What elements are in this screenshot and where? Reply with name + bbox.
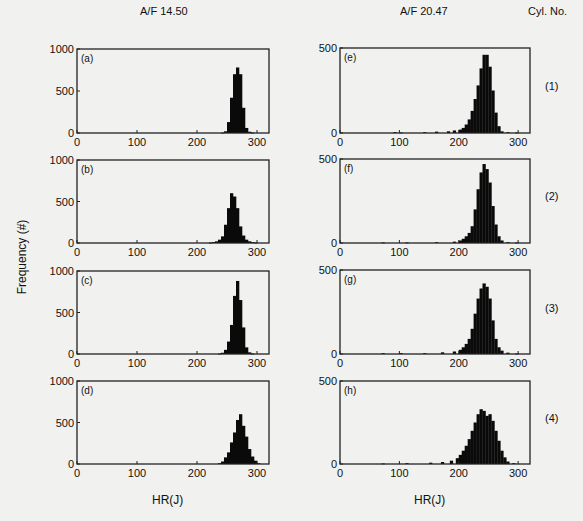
histogram-bar: [230, 325, 233, 354]
y-tick-label: 0: [331, 458, 337, 470]
histogram-bar: [471, 431, 474, 464]
x-tick-label: 100: [128, 467, 146, 479]
y-tick-label: 1000: [50, 154, 74, 166]
x-tick-label: 200: [188, 467, 206, 479]
panel-label: (g): [344, 274, 356, 285]
histogram-bar: [488, 183, 491, 243]
histogram-bar: [239, 300, 242, 354]
histogram-panel-b: (b)010020030005001000: [77, 160, 269, 243]
x-tick-label: 200: [188, 357, 206, 369]
histogram-bar: [480, 68, 483, 133]
histogram-bar: [474, 314, 477, 354]
y-tick-label: 500: [56, 196, 74, 208]
histogram-bar: [480, 409, 483, 464]
histogram-bar: [465, 446, 468, 464]
y-tick-label: 0: [68, 127, 74, 139]
histogram-bar: [224, 225, 227, 243]
column-title-af-14-50: A/F 14.50: [140, 5, 188, 17]
x-tick-label: 200: [188, 246, 206, 258]
histogram-bar: [245, 128, 248, 133]
x-tick-label: 100: [390, 467, 408, 479]
histogram-bar: [233, 296, 236, 354]
histogram-panel-g: (g)01002003000500: [340, 270, 530, 354]
x-tick-label: 300: [509, 357, 527, 369]
histogram-bar: [494, 225, 497, 243]
histogram-bar: [227, 342, 230, 354]
y-tick-label: 0: [68, 348, 74, 360]
histogram-bar: [251, 457, 254, 464]
histogram-bar: [248, 449, 251, 464]
x-tick-label: 300: [509, 467, 527, 479]
histogram-bar: [242, 327, 245, 354]
histogram-bar: [462, 451, 465, 464]
histogram-bar: [236, 420, 239, 464]
x-tick-label: 100: [128, 357, 146, 369]
histogram-bar: [491, 206, 494, 243]
x-tick-label: 200: [188, 136, 206, 148]
histogram-bar: [485, 55, 488, 133]
histogram-bar: [494, 339, 497, 354]
cylinder-label-3: (3): [545, 302, 558, 314]
x-tick-label: 300: [248, 467, 266, 479]
y-tick-label: 0: [331, 348, 337, 360]
y-tick-label: 500: [56, 85, 74, 97]
cylinder-label-4: (4): [545, 412, 558, 424]
histogram-panel-f: (f)01002003000500: [340, 159, 530, 243]
histogram-bar: [233, 197, 236, 243]
histogram-bar: [497, 441, 500, 464]
histogram-bar: [224, 457, 227, 464]
histogram-bar: [236, 67, 239, 133]
histogram-panel-d: (d)010020030005001000: [77, 381, 269, 464]
histogram-bar: [477, 414, 480, 464]
x-axis-label-right: HR(J): [414, 493, 445, 507]
y-axis-label: Frequency (#): [15, 207, 29, 307]
plot-frame: [340, 48, 530, 133]
plot-frame: [340, 270, 530, 354]
histogram-bar: [494, 113, 497, 133]
x-tick-label: 200: [450, 467, 468, 479]
x-tick-label: 200: [450, 136, 468, 148]
histogram-bar: [497, 236, 500, 243]
y-tick-label: 0: [331, 127, 337, 139]
histogram-bar: [474, 209, 477, 243]
y-tick-label: 500: [319, 153, 337, 165]
histogram-bar: [494, 431, 497, 464]
x-tick-label: 0: [337, 357, 343, 369]
histogram-bar: [239, 414, 242, 464]
histogram-bar: [485, 416, 488, 464]
histogram-bar: [230, 442, 233, 464]
histogram-bar: [488, 414, 491, 464]
histogram-bar: [497, 347, 500, 354]
histogram-bar: [488, 67, 491, 133]
histogram-bar: [471, 226, 474, 243]
x-tick-label: 100: [128, 246, 146, 258]
panel-label: (d): [81, 385, 93, 396]
histogram-panel-a: (a)010020030005001000: [77, 49, 269, 133]
x-tick-label: 100: [390, 357, 408, 369]
histogram-bar: [245, 347, 248, 354]
y-tick-label: 0: [68, 237, 74, 249]
cylinder-label-1: (1): [545, 80, 558, 92]
histogram-bar: [491, 421, 494, 464]
histogram-panel-e: (e)01002003000500: [340, 48, 530, 133]
x-tick-label: 100: [390, 136, 408, 148]
x-tick-label: 100: [128, 136, 146, 148]
histogram-bar: [500, 451, 503, 464]
histogram-bar: [227, 122, 230, 133]
x-tick-label: 0: [74, 246, 80, 258]
cylinder-number-header: Cyl. No.: [528, 5, 567, 17]
x-tick-label: 300: [248, 246, 266, 258]
histogram-bar: [468, 439, 471, 464]
y-tick-label: 500: [56, 307, 74, 319]
histogram-bar: [230, 193, 233, 243]
histogram-bar: [491, 320, 494, 354]
histogram-bar: [245, 437, 248, 464]
histogram-bar: [480, 288, 483, 354]
x-tick-label: 0: [337, 467, 343, 479]
histogram-bar: [480, 172, 483, 243]
x-tick-label: 300: [509, 136, 527, 148]
histogram-bar: [227, 208, 230, 243]
histogram-bar: [468, 233, 471, 243]
histogram-bar: [242, 426, 245, 464]
histogram-bar: [465, 236, 468, 243]
